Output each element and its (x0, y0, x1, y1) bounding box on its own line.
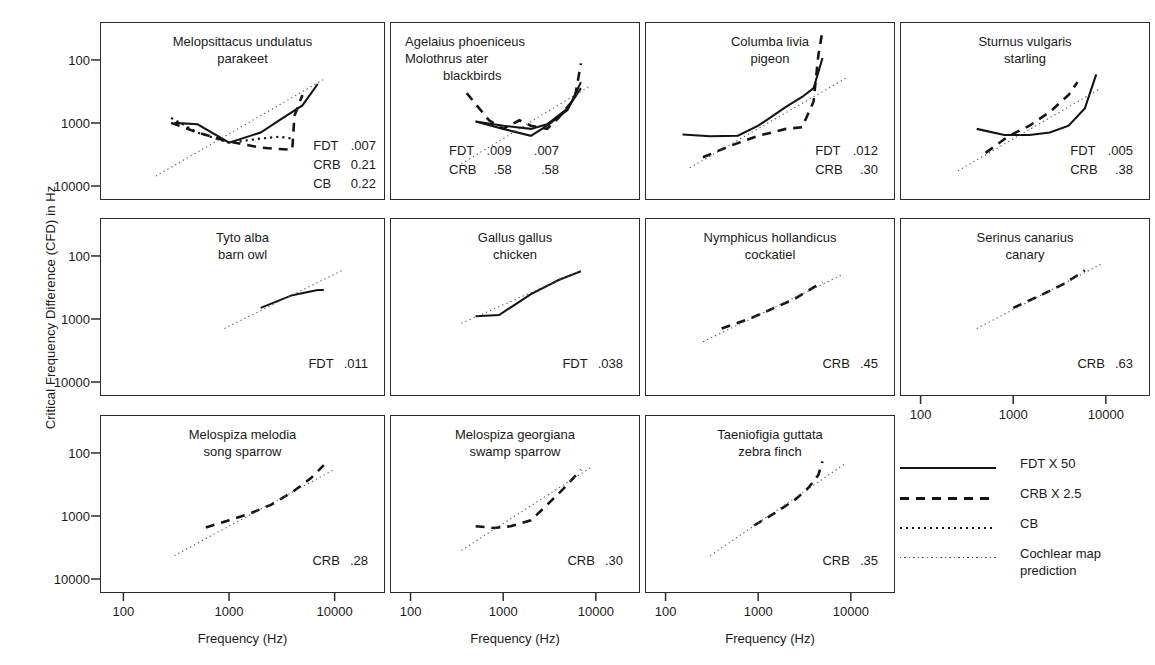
x-ticks-col-0: 100100010000 (100, 604, 385, 626)
series-line (703, 275, 841, 341)
stat-row: CRB0.21 (313, 155, 376, 174)
x-tick-label: 10000 (578, 604, 614, 619)
legend-label: Cochlear mapprediction (1020, 545, 1101, 579)
stats-cockatiel: CRB.45 (822, 354, 878, 373)
stats-barn-owl: FDT.011 (308, 354, 368, 373)
legend-item-dotted: CB (900, 515, 1150, 541)
stat-row: CRB.28 (312, 551, 368, 570)
y-tick-label: 1000 (61, 508, 90, 523)
stat-row: CRB.35 (822, 551, 878, 570)
stat-value: 0.22 (341, 174, 376, 193)
series-line (1013, 270, 1085, 308)
legend-swatch-solid (900, 467, 996, 469)
x-tick-label: 100 (113, 604, 135, 619)
stat-key: CRB (822, 551, 849, 570)
x-tick-label: 10000 (833, 604, 869, 619)
stat-row: CRB.45 (822, 354, 878, 373)
y-ticks-row-1: 100001000100 (32, 218, 90, 396)
series-line (476, 271, 581, 316)
x-tick-label: 10000 (1088, 407, 1124, 422)
stats-canary: CRB.63 (1077, 354, 1133, 373)
figure-root: Critical Frequency Difference (CFD) in H… (0, 0, 1155, 665)
series-line (206, 465, 324, 527)
panel-zebra-finch: Taeniofigia guttatazebra finchCRB.35 (645, 415, 895, 593)
y-tick-label: 100 (68, 248, 90, 263)
series-line (261, 290, 324, 308)
y-ticks-row-2: 100001000100 (32, 415, 90, 593)
legend-swatch-fine-dotted (900, 557, 996, 558)
stats-starling: FDT.005CRB.38 (1070, 141, 1133, 179)
y-tick-label: 10000 (54, 375, 90, 390)
stat-value: .28 (340, 551, 368, 570)
series-line (476, 470, 581, 528)
stat-row: FDT.005 (1070, 141, 1133, 160)
x-tick-label: 100 (910, 407, 932, 422)
stat-row: CRB.63 (1077, 354, 1133, 373)
legend: FDT X 50CRB X 2.5CBCochlear mappredictio… (900, 455, 1150, 585)
series-line (986, 82, 1078, 153)
stat-key: FDT (1070, 141, 1097, 160)
series-line (710, 463, 846, 555)
x-tick-label: 10000 (317, 604, 353, 619)
legend-label: FDT X 50 (1020, 455, 1075, 472)
stat-row: FDT.012 (815, 141, 878, 160)
panel-starling: Sturnus vulgarisstarlingFDT.005CRB.38 (900, 22, 1150, 200)
stat-value: .011 (334, 354, 368, 373)
stat-key: CRB (1077, 354, 1104, 373)
stat-value: .30 (595, 551, 623, 570)
y-ticks-row-0: 100001000100 (32, 22, 90, 200)
stat-value: .005 (1098, 141, 1133, 160)
x-ticks-col-2: 100100010000 (645, 604, 895, 626)
legend-label-line: CRB X 2.5 (1020, 485, 1081, 502)
y-tick-label: 10000 (54, 179, 90, 194)
stat-key: CRB (822, 354, 849, 373)
stats-chicken: FDT.038 (562, 354, 623, 373)
stats-swamp-sparrow: CRB.30 (567, 551, 623, 570)
stat-value: .009 (476, 141, 511, 160)
series-line (977, 264, 1101, 328)
x-tick-label: 1000 (489, 604, 518, 619)
series-line (754, 461, 822, 525)
stats-song-sparrow: CRB.28 (312, 551, 368, 570)
y-tick-label: 1000 (61, 311, 90, 326)
x-tick-label: 1000 (215, 604, 244, 619)
series-line (467, 63, 581, 129)
legend-swatch-dashed (900, 497, 996, 500)
x-ticks-col-3: 100100010000 (900, 407, 1150, 429)
y-tick-label: 10000 (54, 572, 90, 587)
stat-value: .30 (843, 160, 878, 179)
panel-chicken: Gallus galluschickenFDT.038 (390, 218, 640, 396)
stat-value: .45 (850, 354, 878, 373)
x-tick-label: 1000 (999, 407, 1028, 422)
stat-value: .63 (1105, 354, 1133, 373)
stat-row: FDT.009.007 (449, 141, 559, 160)
legend-label-line: Cochlear map (1020, 545, 1101, 562)
stat-value: 0.21 (341, 155, 376, 174)
stat-row: FDT.038 (562, 354, 623, 373)
stat-key: FDT (449, 141, 476, 160)
legend-label-line: prediction (1020, 562, 1101, 579)
series-line (171, 95, 302, 150)
x-tick-label: 1000 (744, 604, 773, 619)
stat-value: .58 (512, 160, 559, 179)
legend-label-line: FDT X 50 (1020, 455, 1075, 472)
panel-parakeet: Melopsittacus undulatusparakeetFDT.007CR… (100, 22, 385, 200)
stat-key: CRB (312, 551, 339, 570)
legend-swatch-dotted (900, 527, 996, 529)
legend-label-line: CB (1020, 515, 1038, 532)
stat-key: CRB (313, 155, 340, 174)
stat-key: CRB (449, 160, 476, 179)
y-tick-label: 1000 (61, 115, 90, 130)
series-line (722, 282, 823, 328)
stat-value: .007 (341, 136, 376, 155)
stats-parakeet: FDT.007CRB0.21CB0.22 (313, 136, 376, 193)
stat-value: .35 (850, 551, 878, 570)
legend-label: CB (1020, 515, 1038, 532)
panel-song-sparrow: Melospiza melodiasong sparrowCRB.28 (100, 415, 385, 593)
stat-value: .012 (843, 141, 878, 160)
panel-blackbirds: Agelaius phoeniceusMolothrus aterblackbi… (390, 22, 640, 200)
stat-key: FDT (815, 141, 842, 160)
stat-row: FDT.007 (313, 136, 376, 155)
x-axis-label-col-0: Frequency (Hz) (100, 631, 385, 646)
stat-value: .007 (512, 141, 559, 160)
